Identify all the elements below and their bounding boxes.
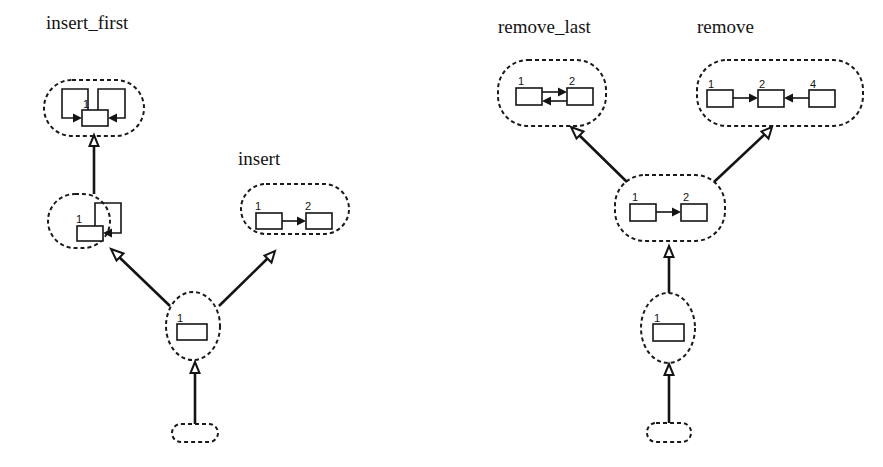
node-label: 2 [569,75,575,87]
state-selfloop-left: 1 [48,194,121,248]
list-node [306,213,332,229]
state-insert: 1 2 [241,184,349,234]
state-empty-right [647,423,691,442]
list-node [653,324,684,341]
state-remove: 1 2 4 [697,60,863,126]
node-label: 2 [759,78,765,90]
node-label: 1 [708,78,714,90]
edge-single-to-two-nodes [665,246,674,293]
edge-two-nodes-to-remove [714,127,772,182]
diagram-svg: 1 1 1 [0,0,883,467]
list-node [256,213,282,229]
diagram-canvas: insert_first insert remove_last remove 1 [0,0,883,467]
edge-empty-to-single-left [191,362,200,424]
state-single-node-right: 1 [641,293,695,363]
state-empty-left [172,424,218,442]
edge-two-nodes-to-remove-last [571,127,627,182]
edge-empty-to-single-right [665,364,674,423]
node-label: 1 [518,75,524,87]
edge-selfloop-to-insert-first [90,135,99,194]
list-node [82,110,108,126]
list-node [177,324,207,340]
list-node [567,88,593,105]
edge-single-to-selfloop [111,249,170,306]
node-label: 1 [654,312,660,324]
node-label: 2 [683,191,689,203]
list-node [516,88,542,105]
state-single-node-left: 1 [166,292,220,360]
node-label: 1 [76,213,82,225]
list-node [707,90,733,107]
state-remove-last: 1 2 [498,60,606,126]
node-label: 2 [305,200,311,212]
list-node [758,90,784,107]
state-insert-first: 1 [44,80,144,136]
list-node [77,226,103,241]
state-two-nodes: 1 2 [615,175,725,241]
node-label: 1 [177,312,183,324]
node-label: 4 [810,78,816,90]
list-node [681,204,707,221]
list-node [809,90,835,107]
node-label: 1 [255,200,261,212]
node-label: 1 [632,191,638,203]
list-node [630,204,656,221]
edge-single-to-insert [219,251,275,306]
